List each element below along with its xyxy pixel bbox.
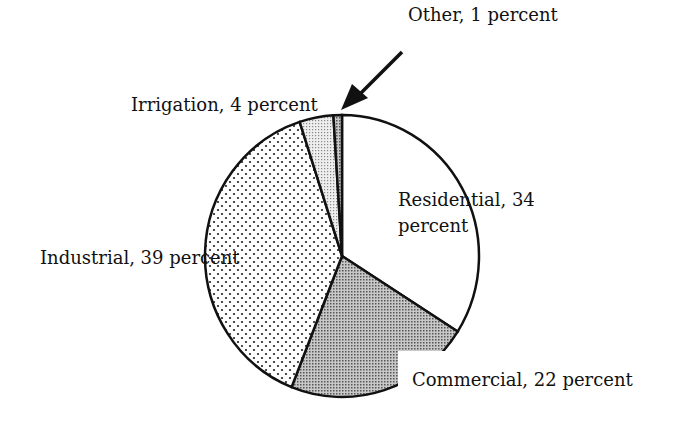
- label-residential-line2: percent: [398, 214, 468, 238]
- label-commercial: Commercial, 22 percent: [412, 368, 633, 392]
- label-other: Other, 1 percent: [408, 3, 558, 27]
- label-irrigation: Irrigation, 4 percent: [131, 93, 318, 117]
- pie-graphic: [0, 0, 697, 424]
- label-residential-line1: Residential, 34: [398, 188, 535, 212]
- pie-chart: Other, 1 percent Irrigation, 4 percent R…: [0, 0, 697, 424]
- label-industrial: Industrial, 39 percent: [40, 246, 240, 270]
